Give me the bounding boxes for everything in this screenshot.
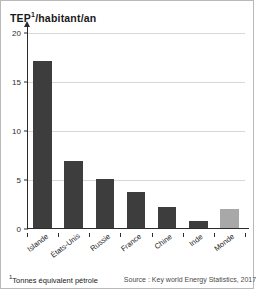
x-label-slot: France xyxy=(120,231,151,267)
x-axis-tick-mark xyxy=(245,233,246,237)
x-label-slot: États-Unis xyxy=(58,231,89,267)
x-axis-label-inde: Inde xyxy=(188,232,205,248)
x-axis-label-chine: Chine xyxy=(153,232,174,251)
chart-footer: 1Tonnes équivalent pétrole Source : Key … xyxy=(1,274,253,285)
chart-title: TEP1/habitant/an xyxy=(10,11,96,24)
y-axis-tick-mark xyxy=(24,33,28,34)
bar-slot xyxy=(89,33,120,228)
bar-slot xyxy=(214,33,245,228)
x-axis-label-france: France xyxy=(119,232,143,253)
y-axis-tick-mark xyxy=(24,82,28,83)
bar-chine xyxy=(158,207,177,228)
x-label-slot: Inde xyxy=(183,231,214,267)
source-credit: Source : Key world Energy Statistics, 20… xyxy=(124,276,256,283)
footnote: 1Tonnes équivalent pétrole xyxy=(9,274,98,285)
bar-inde xyxy=(189,221,208,228)
y-axis-tick-mark xyxy=(24,180,28,181)
chart-figure: TEP1/habitant/an 05101520 IslandeÉtats-U… xyxy=(0,0,254,289)
footnote-text: Tonnes équivalent pétrole xyxy=(12,275,97,284)
x-axis-label-russie: Russie xyxy=(88,232,112,253)
x-axis xyxy=(27,228,249,229)
chart-title-rest: /habitant/an xyxy=(35,12,96,24)
bar-series xyxy=(27,33,245,228)
bar-slot xyxy=(183,33,214,228)
bar-slot xyxy=(27,33,58,228)
y-axis-tick-mark xyxy=(24,229,28,230)
bar--tats-unis xyxy=(64,161,83,228)
bar-slot xyxy=(120,33,151,228)
x-axis-label-monde: Monde xyxy=(213,232,237,253)
y-axis-tick-mark xyxy=(24,131,28,132)
x-label-slot: Russie xyxy=(89,231,120,267)
bar-monde xyxy=(220,209,239,228)
bar-france xyxy=(127,192,146,228)
bar-slot xyxy=(152,33,183,228)
bar-russie xyxy=(96,179,115,228)
x-label-slot: Monde xyxy=(214,231,245,267)
x-axis-label-islande: Islande xyxy=(25,232,50,254)
bar-slot xyxy=(58,33,89,228)
plot-area: 05101520 xyxy=(27,33,245,229)
x-axis-labels: IslandeÉtats-UnisRussieFranceChineIndeMo… xyxy=(27,231,245,267)
bar-islande xyxy=(33,61,52,228)
x-label-slot: Chine xyxy=(152,231,183,267)
